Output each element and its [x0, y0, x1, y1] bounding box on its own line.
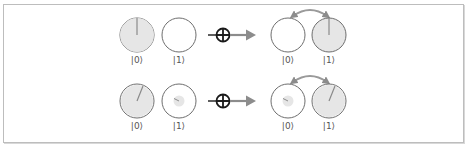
- swap-arrow-icon: [293, 76, 327, 82]
- output-circle-1: |1⟩: [312, 84, 346, 131]
- input-circle-1: |1⟩: [162, 84, 196, 131]
- ket-label: |0⟩: [282, 121, 294, 131]
- ket-label: |0⟩: [282, 55, 294, 65]
- ket-label: |1⟩: [173, 55, 185, 65]
- row-1: |0⟩ |1⟩ |0⟩ |1⟩: [120, 10, 346, 65]
- output-circle-1: |1⟩: [312, 18, 346, 65]
- ket-label: |1⟩: [323, 121, 335, 131]
- input-circle-0: |0⟩: [120, 84, 154, 131]
- ket-label: |0⟩: [131, 121, 143, 131]
- input-circle-1: |1⟩: [162, 18, 196, 65]
- ket-label: |1⟩: [323, 55, 335, 65]
- ket-label: |0⟩: [131, 55, 143, 65]
- output-circle-0: |0⟩: [271, 18, 305, 65]
- row-2: |0⟩ |1⟩ |0⟩ |1⟩: [120, 76, 346, 131]
- ket-label: |1⟩: [173, 121, 185, 131]
- swap-arrow-icon: [293, 10, 327, 16]
- cnot-gate: [208, 95, 256, 108]
- input-circle-0: |0⟩: [120, 18, 154, 65]
- output-circle-0: |0⟩: [271, 84, 305, 131]
- cnot-circle-notation-diagram: |0⟩ |1⟩ |0⟩ |1⟩ |: [0, 0, 467, 148]
- cnot-gate: [208, 29, 256, 42]
